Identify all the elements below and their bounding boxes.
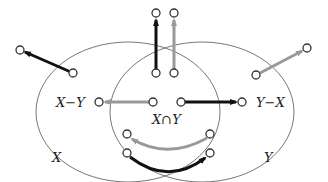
node-xy-right xyxy=(177,98,185,106)
node-top-dark xyxy=(152,9,160,17)
node-xy-left xyxy=(149,98,157,106)
node-y-outer xyxy=(303,44,311,52)
node-y-minus-x xyxy=(238,98,246,106)
label-x: X xyxy=(51,150,62,165)
node-bottom-left-top xyxy=(123,130,131,138)
node-y-inner xyxy=(252,71,260,79)
label-y-minus-x: Y−X xyxy=(256,95,285,110)
node-xy-up-light xyxy=(170,69,178,77)
arrow-bottom-dark xyxy=(130,157,205,172)
node-x-minus-y xyxy=(95,98,103,106)
label-y: Y xyxy=(264,150,274,165)
node-top-light xyxy=(170,9,178,17)
arrow-x-out xyxy=(25,52,73,73)
label-x-minus-y: X−Y xyxy=(55,95,86,110)
node-bottom-right-bottom xyxy=(206,149,214,157)
node-x-outer xyxy=(16,46,24,54)
node-bottom-left-bottom xyxy=(123,149,131,157)
set-x-ellipse xyxy=(36,42,220,182)
arrow-bottom-light xyxy=(132,138,207,149)
node-xy-up-dark xyxy=(152,69,160,77)
node-bottom-right-top xyxy=(206,130,214,138)
label-x-cap-y: X∩Y xyxy=(151,112,182,127)
node-x-inner xyxy=(69,69,77,77)
venn-diagram: X−Y Y−X X∩Y X Y xyxy=(0,0,328,182)
